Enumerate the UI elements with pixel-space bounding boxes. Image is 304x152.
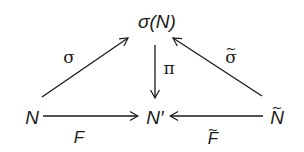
arrow-sigma: [42, 38, 128, 97]
commutative-diagram: σ(N) N N′ N ~ σ σ ~ π F F ~: [0, 0, 304, 152]
tilde-accent: ~: [208, 123, 219, 136]
arrow-sigma-tilde: [173, 38, 262, 96]
node-sigma-N: σ(N): [138, 12, 176, 31]
node-N-tilde: N ~: [270, 108, 284, 127]
label-F: F: [74, 129, 84, 146]
node-N-prime: N′: [146, 108, 163, 127]
label-F-tilde: F ~: [208, 130, 218, 147]
tilde-accent: ~: [226, 42, 237, 55]
label-pi: π: [163, 60, 174, 77]
tilde-accent: ~: [272, 101, 283, 114]
node-N: N: [25, 108, 39, 127]
label-sigma: σ: [63, 49, 75, 66]
label-sigma-tilde: σ ~: [225, 49, 237, 66]
